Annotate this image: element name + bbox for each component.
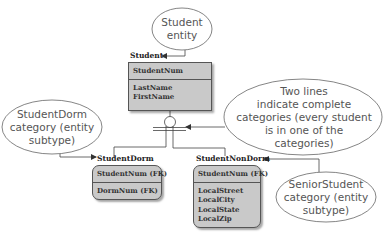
- attribute: LocalStreet: [198, 186, 256, 196]
- callout-text-line: Two lines: [236, 85, 372, 98]
- pointer-studentdorm: [60, 154, 96, 157]
- entity-attribute-section: LastName FirstName: [129, 80, 211, 105]
- key-attribute: StudentNum: [133, 66, 207, 76]
- pointer-student-entity: [162, 50, 185, 56]
- callout-text-line: entity: [161, 29, 202, 42]
- entity-studentnondorm: StudentNum (FK) LocalStreet LocalCity Lo…: [193, 165, 261, 228]
- callout-text-line: category (entity: [284, 191, 368, 204]
- callout-seniorstudent: SeniorStudent category (entity subtype): [276, 173, 376, 221]
- callout-text-line: subtype): [10, 134, 94, 147]
- entity-attribute-section: LocalStreet LocalCity LocalState LocalZi…: [194, 183, 260, 227]
- callout-text-line: category (entity: [10, 121, 94, 134]
- entity-studentdorm: StudentNum (FK) DormNum (FK): [92, 165, 162, 200]
- attribute: DormNum (FK): [97, 186, 157, 196]
- callout-studentdorm: StudentDorm category (entity subtype): [2, 101, 102, 153]
- pointer-seniorstudent: [264, 159, 319, 172]
- callout-text-line: indicate complete: [236, 98, 372, 111]
- callout-student-entity: Student entity: [152, 10, 212, 48]
- entity-label-studentnondorm: StudentNonDorm: [196, 154, 270, 163]
- callout-text-line: is in one of the: [236, 124, 372, 137]
- entity-label-studentdorm: StudentDorm: [97, 154, 154, 163]
- callout-text-line: categories (every student: [236, 111, 372, 124]
- entity-key-section: StudentNum (FK): [93, 166, 161, 183]
- entity-attribute-section: DormNum (FK): [93, 183, 161, 199]
- attribute: LocalState: [198, 205, 256, 215]
- attribute: LocalCity: [198, 195, 256, 205]
- callout-complete-categories: Two lines indicate complete categories (…: [226, 80, 382, 154]
- entity-student: StudentNum LastName FirstName: [128, 62, 212, 111]
- callout-text-line: categories): [236, 137, 372, 150]
- entity-key-section: StudentNum (FK): [194, 166, 260, 183]
- key-attribute: StudentNum (FK): [97, 169, 157, 179]
- entity-key-section: StudentNum: [129, 63, 211, 80]
- attribute: LastName: [133, 83, 207, 93]
- attribute: LocalZip: [198, 214, 256, 224]
- callout-text-line: subtype): [284, 204, 368, 217]
- key-attribute: StudentNum (FK): [198, 169, 256, 179]
- callout-text-line: SeniorStudent: [284, 178, 368, 191]
- callout-text-line: StudentDorm: [10, 108, 94, 121]
- callout-text-line: Student: [161, 16, 202, 29]
- entity-label-student: Student: [130, 51, 163, 60]
- attribute: FirstName: [133, 92, 207, 102]
- category-circle-icon: [165, 117, 176, 128]
